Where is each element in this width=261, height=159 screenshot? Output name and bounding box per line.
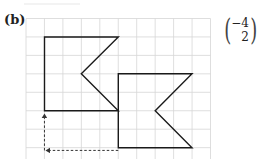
right-paren: ) [251, 14, 258, 46]
translation-vector: ( −4 2 ) [226, 14, 256, 48]
vector-x-component: −4 [231, 16, 249, 30]
vector-y-component: 2 [241, 30, 249, 44]
translation-diagram [0, 0, 261, 159]
